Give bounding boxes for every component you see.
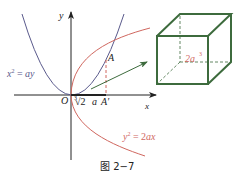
equation-y2-2ax: y2 = 2ax — [122, 131, 156, 142]
arrow-to-cube — [91, 62, 147, 89]
equation-x2-ay: x2 = ay — [6, 68, 35, 79]
origin-label: O — [61, 95, 68, 106]
svg-text:x2 = ay: x2 = ay — [6, 68, 35, 79]
svg-text:y2 = 2ax: y2 = 2ax — [122, 131, 156, 142]
svg-text:a: a — [92, 96, 97, 107]
cube — [157, 14, 231, 84]
diagram: y x O A A′ 3 √2 a x2 = ay y2 = 2ax 2a 3 … — [0, 0, 235, 173]
segment-length-label: 3 √2 a — [74, 95, 97, 107]
figure-caption: 图 2−7 — [100, 161, 134, 172]
y-axis-label: y — [58, 10, 64, 21]
svg-text:2a: 2a — [185, 53, 195, 64]
cube-volume-label: 2a 3 — [185, 51, 202, 64]
svg-text:3: 3 — [199, 51, 202, 57]
point-a-prime-label: A′ — [100, 96, 110, 107]
x-axis-label: x — [144, 101, 149, 111]
point-a-label: A — [107, 52, 115, 63]
svg-text:√2: √2 — [75, 96, 86, 107]
